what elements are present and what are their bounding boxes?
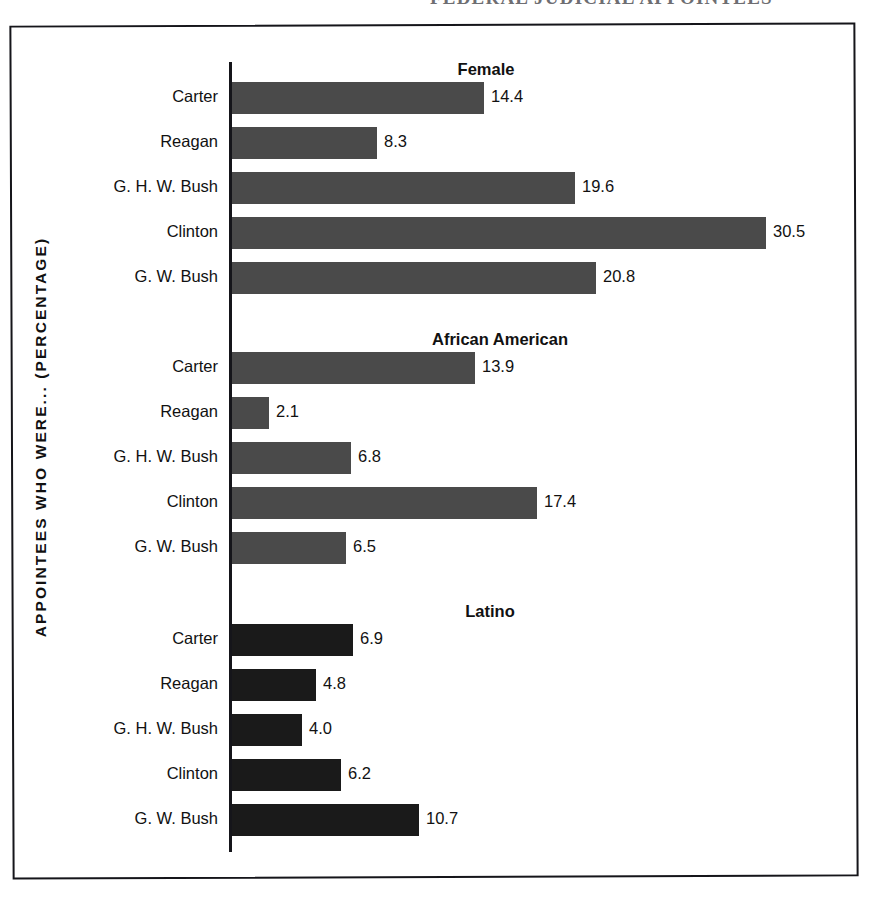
bar-value-label: 13.9 xyxy=(482,357,514,376)
figure-content: APPOINTEES WHO WERE... (PERCENTAGE) Fema… xyxy=(0,0,876,908)
bar-category-label: Reagan xyxy=(0,402,218,421)
bar-row: Clinton6.2 xyxy=(0,759,876,791)
bar xyxy=(232,397,269,429)
bar-group-female: FemaleCarter14.4Reagan8.3G. H. W. Bush19… xyxy=(0,60,876,307)
bar-category-label: G. H. W. Bush xyxy=(0,447,218,466)
bar-value-label: 10.7 xyxy=(426,809,458,828)
bar-value-label: 17.4 xyxy=(544,492,576,511)
bar-row: Clinton30.5 xyxy=(0,217,876,249)
bar xyxy=(232,804,419,836)
bar-value-label: 30.5 xyxy=(773,222,805,241)
bar xyxy=(232,352,475,384)
bar-group-latino: LatinoCarter6.9Reagan4.8G. H. W. Bush4.0… xyxy=(0,602,876,849)
bar-group-african-american: African AmericanCarter13.9Reagan2.1G. H.… xyxy=(0,330,876,577)
bar xyxy=(232,759,341,791)
bar-value-label: 19.6 xyxy=(582,177,614,196)
bar-category-label: Reagan xyxy=(0,674,218,693)
group-heading: Female xyxy=(458,60,515,79)
bar-row: Reagan2.1 xyxy=(0,397,876,429)
bar-category-label: G. W. Bush xyxy=(0,537,218,556)
bar xyxy=(232,262,596,294)
bar xyxy=(232,487,537,519)
bar-value-label: 6.2 xyxy=(348,764,371,783)
group-heading: African American xyxy=(432,330,568,349)
bar xyxy=(232,82,484,114)
bar xyxy=(232,714,302,746)
bar-row: G. W. Bush6.5 xyxy=(0,532,876,564)
bar-category-label: Clinton xyxy=(0,764,218,783)
bar-value-label: 4.8 xyxy=(323,674,346,693)
bar-category-label: Carter xyxy=(0,357,218,376)
bar xyxy=(232,532,346,564)
bar xyxy=(232,669,316,701)
bar-row: G. H. W. Bush6.8 xyxy=(0,442,876,474)
bar-row: Carter13.9 xyxy=(0,352,876,384)
bar-value-label: 14.4 xyxy=(491,87,523,106)
bar-row: G. W. Bush20.8 xyxy=(0,262,876,294)
bar-row: Reagan4.8 xyxy=(0,669,876,701)
bar-category-label: G. H. W. Bush xyxy=(0,177,218,196)
bar xyxy=(232,624,353,656)
bar-value-label: 4.0 xyxy=(309,719,332,738)
bar-value-label: 6.8 xyxy=(358,447,381,466)
bar-category-label: G. H. W. Bush xyxy=(0,719,218,738)
bar xyxy=(232,172,575,204)
bar-category-label: Carter xyxy=(0,629,218,648)
bar-category-label: Clinton xyxy=(0,222,218,241)
bar-value-label: 8.3 xyxy=(384,132,407,151)
bar-category-label: Reagan xyxy=(0,132,218,151)
bar xyxy=(232,127,377,159)
bar-value-label: 20.8 xyxy=(603,267,635,286)
bar-row: Carter14.4 xyxy=(0,82,876,114)
bar-row: G. H. W. Bush4.0 xyxy=(0,714,876,746)
bar-row: Clinton17.4 xyxy=(0,487,876,519)
bar-row: Reagan8.3 xyxy=(0,127,876,159)
group-heading: Latino xyxy=(465,602,515,621)
bar-row: G. W. Bush10.7 xyxy=(0,804,876,836)
bar-value-label: 6.9 xyxy=(360,629,383,648)
bar-row: Carter6.9 xyxy=(0,624,876,656)
bar xyxy=(232,217,766,249)
bar xyxy=(232,442,351,474)
bar-category-label: Carter xyxy=(0,87,218,106)
bar-value-label: 6.5 xyxy=(353,537,376,556)
bar-category-label: G. W. Bush xyxy=(0,809,218,828)
bar-row: G. H. W. Bush19.6 xyxy=(0,172,876,204)
bar-category-label: Clinton xyxy=(0,492,218,511)
bar-value-label: 2.1 xyxy=(276,402,299,421)
bar-category-label: G. W. Bush xyxy=(0,267,218,286)
